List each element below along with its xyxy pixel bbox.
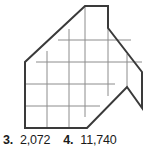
- polygon-outline: [25, 6, 142, 128]
- answer-choice-4-number: 4.: [63, 133, 73, 147]
- worksheet-item: 3. 2,072 4. 11,740: [0, 0, 157, 150]
- answer-choice-3-value: 2,072: [20, 133, 50, 147]
- answer-choice-3-number: 3.: [3, 133, 13, 147]
- answer-choice-4-value: 11,740: [80, 133, 116, 147]
- answer-choices-row: 3. 2,072 4. 11,740: [0, 130, 157, 150]
- grid-polygon-figure: [0, 0, 157, 130]
- grid-lines-group: [25, 6, 142, 128]
- answer-choice-3[interactable]: 3. 2,072: [3, 133, 50, 147]
- figure-area: [0, 0, 157, 130]
- answer-choice-4[interactable]: 4. 11,740: [63, 133, 116, 147]
